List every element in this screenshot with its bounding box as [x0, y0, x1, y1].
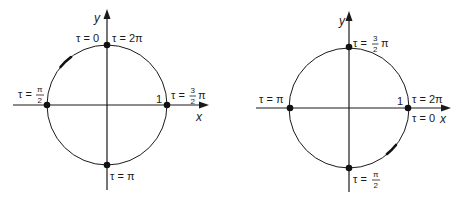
svg-text:3: 3 — [191, 86, 196, 95]
x-axis-label: x — [439, 112, 447, 126]
top-left-label: τ = 0 — [76, 32, 99, 44]
point-right — [405, 105, 412, 112]
right-point-label-below: τ = 0 — [412, 112, 435, 124]
point-left — [44, 102, 51, 109]
bottom-point-label: τ = π — [110, 170, 135, 182]
point-left — [287, 105, 294, 112]
y-axis-label: y — [338, 14, 346, 28]
point-top — [104, 42, 111, 49]
svg-text:2: 2 — [373, 45, 378, 54]
bottom-point-label: τ = π 2 — [353, 170, 380, 190]
direction-arrow-icon — [387, 145, 396, 154]
svg-text:τ =: τ = — [353, 37, 367, 49]
svg-text:2: 2 — [191, 97, 196, 106]
left-point-label: τ = π — [259, 93, 284, 105]
direction-arrow-icon — [61, 57, 72, 67]
unit-label: 1 — [156, 93, 162, 105]
parametrization-diagrams: y x 1 τ = 0 τ = 2π τ = π 2 τ = 3 2 π τ =… — [0, 0, 461, 204]
x-axis-arrow-icon — [441, 105, 451, 112]
svg-text:π: π — [373, 170, 379, 179]
x-axis-label: x — [195, 110, 203, 124]
svg-text:2: 2 — [38, 96, 43, 105]
x-axis-arrow-icon — [199, 102, 209, 109]
svg-text:3: 3 — [373, 34, 378, 43]
svg-text:π: π — [37, 85, 43, 94]
point-bottom — [104, 162, 111, 169]
svg-text:π: π — [381, 37, 389, 49]
svg-text:τ =: τ = — [353, 173, 367, 185]
top-point-label: τ = 3 2 π — [353, 34, 389, 54]
left-diagram: y x 1 τ = 0 τ = 2π τ = π 2 τ = 3 2 π τ =… — [13, 9, 209, 190]
point-right — [164, 102, 171, 109]
left-point-label: τ = π 2 — [18, 85, 44, 105]
right-point-label-above: τ = 2π — [412, 93, 443, 105]
svg-text:τ =: τ = — [171, 89, 185, 101]
right-diagram: y x 1 τ = 3 2 π τ = π τ = 2π τ = 0 τ = π… — [256, 11, 451, 192]
unit-label: 1 — [397, 95, 403, 107]
y-axis-arrow-icon — [346, 11, 353, 21]
top-right-label: τ = 2π — [112, 32, 143, 44]
svg-text:2: 2 — [374, 181, 379, 190]
y-axis-arrow-icon — [104, 9, 111, 19]
svg-text:τ =: τ = — [18, 88, 32, 100]
point-top — [346, 44, 353, 51]
y-axis-label: y — [93, 11, 101, 25]
svg-text:π: π — [198, 89, 206, 101]
point-bottom — [346, 165, 353, 172]
